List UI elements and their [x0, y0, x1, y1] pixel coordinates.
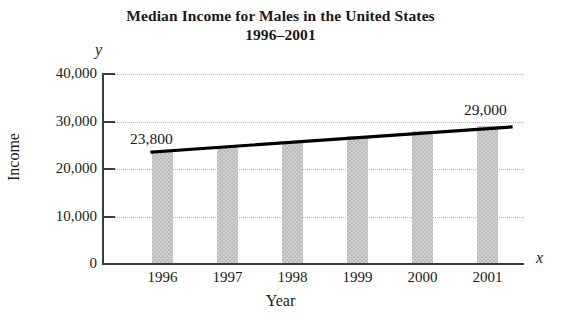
gridline-30000 — [103, 122, 524, 123]
y-tick-30000 — [104, 121, 115, 123]
bar-1999 — [347, 136, 368, 264]
x-tick-label-1999: 1999 — [328, 270, 388, 285]
bar-2001 — [477, 126, 498, 264]
x-axis-line — [102, 263, 524, 265]
y-tick-label-20000: 20,000 — [33, 161, 97, 176]
x-tick-label-1996: 1996 — [133, 270, 193, 285]
x-axis-letter: x — [536, 250, 543, 266]
x-tick-label-2001: 2001 — [458, 270, 518, 285]
y-tick-10000 — [104, 216, 115, 218]
y-tick-label-10000: 10,000 — [33, 209, 97, 224]
x-tick-label-1997: 1997 — [198, 270, 258, 285]
gridline-40000 — [103, 74, 524, 75]
x-tick-label-2000: 2000 — [393, 270, 453, 285]
bar-2000 — [412, 131, 433, 264]
bar-1996 — [152, 151, 173, 264]
x-axis-title: Year — [0, 292, 561, 310]
y-tick-label-0: 0 — [33, 256, 97, 271]
y-tick-label-40000: 40,000 — [33, 66, 97, 81]
income-bar-chart: Median Income for Males in the United St… — [0, 0, 561, 314]
y-tick-label-30000: 30,000 — [33, 114, 97, 129]
y-tick-40000 — [104, 73, 115, 75]
chart-title-line1: Median Income for Males in the United St… — [126, 7, 435, 24]
data-label-2001: 29,000 — [464, 102, 507, 118]
x-tick-label-1998: 1998 — [263, 270, 323, 285]
y-tick-labels: 40,000 30,000 20,000 10,000 0 — [27, 0, 97, 314]
bar-1997 — [217, 146, 238, 264]
data-label-1996: 23,800 — [130, 131, 173, 147]
plot-area — [103, 74, 524, 264]
y-tick-20000 — [104, 168, 115, 170]
y-axis-title: Income — [5, 112, 23, 202]
bar-1998 — [282, 141, 303, 264]
